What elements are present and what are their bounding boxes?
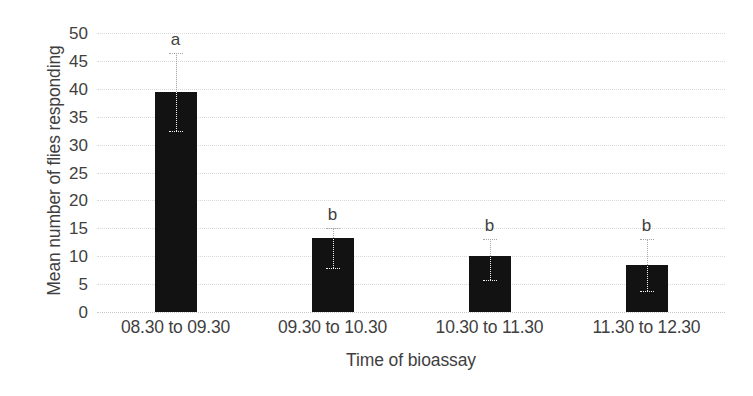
gridline bbox=[97, 33, 725, 34]
x-axis-category-labels: 08.30 to 09.3009.30 to 10.3010.30 to 11.… bbox=[97, 316, 725, 342]
y-tick-label: 20 bbox=[0, 192, 88, 209]
error-bar-cap-top bbox=[326, 228, 340, 229]
y-tick-label: 40 bbox=[0, 80, 88, 97]
error-bar-cap-bottom bbox=[483, 280, 497, 281]
bar-chart: Mean number of flies responding 50454035… bbox=[0, 0, 753, 396]
gridline bbox=[97, 61, 725, 62]
error-bar-cap-top bbox=[169, 53, 183, 54]
x-tick-label: 08.30 to 09.30 bbox=[121, 316, 230, 338]
error-bar-cap-top bbox=[483, 239, 497, 240]
significance-letter: b bbox=[328, 206, 337, 223]
error-bar-line-upper bbox=[647, 239, 648, 265]
error-bar-cap-bottom bbox=[169, 131, 183, 132]
y-tick-label: 45 bbox=[0, 52, 88, 69]
x-axis-title: Time of bioassay bbox=[97, 350, 725, 371]
y-tick-label: 30 bbox=[0, 136, 88, 153]
y-tick-label: 50 bbox=[0, 25, 88, 42]
error-bar-cap-bottom bbox=[640, 291, 654, 292]
error-bar-cap-bottom bbox=[326, 268, 340, 269]
x-tick-label: 11.30 to 12.30 bbox=[593, 316, 701, 338]
gridline bbox=[97, 312, 725, 313]
error-bar-line-upper bbox=[333, 228, 334, 237]
significance-letter: a bbox=[171, 31, 180, 48]
x-tick-label: 09.30 to 10.30 bbox=[278, 316, 387, 338]
y-tick-label: 15 bbox=[0, 220, 88, 237]
x-tick-label: 10.30 to 11.30 bbox=[436, 316, 544, 338]
error-bar-cap-top bbox=[640, 239, 654, 240]
error-bar-line-upper bbox=[490, 239, 491, 256]
y-tick-label: 10 bbox=[0, 248, 88, 265]
significance-letter: b bbox=[485, 217, 494, 234]
gridline bbox=[97, 89, 725, 90]
plot-area: abbb bbox=[97, 33, 725, 312]
error-bar-line-upper bbox=[176, 53, 177, 92]
y-tick-label: 25 bbox=[0, 164, 88, 181]
y-tick-label: 0 bbox=[0, 304, 88, 321]
significance-letter: b bbox=[642, 217, 651, 234]
y-tick-label: 35 bbox=[0, 108, 88, 125]
y-tick-label: 5 bbox=[0, 276, 88, 293]
y-axis-tick-labels: 50454035302520151050 bbox=[0, 33, 88, 312]
